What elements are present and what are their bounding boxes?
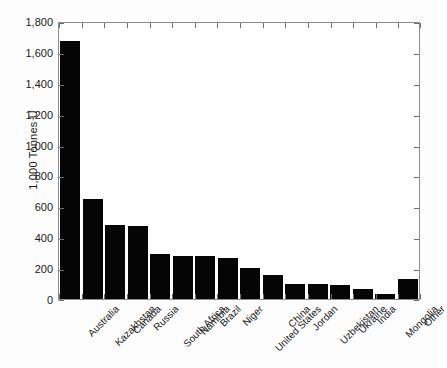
- x-axis-tick-top: [376, 23, 377, 28]
- x-axis-tick-top: [217, 23, 218, 28]
- y-axis-tick-label: 600: [1, 202, 53, 213]
- x-axis-tick-top: [195, 23, 196, 28]
- x-axis-tick: [376, 294, 377, 299]
- bar: [105, 225, 125, 299]
- x-axis-tick-top: [420, 23, 421, 28]
- y-axis-tick-right: [414, 147, 419, 148]
- x-axis-tick: [263, 294, 264, 299]
- x-axis-tick: [353, 294, 354, 299]
- plot-area: [58, 22, 420, 300]
- y-axis-tick-label: 1,800: [1, 17, 53, 28]
- y-axis-tick-label: 800: [1, 171, 53, 182]
- x-axis-tick: [308, 294, 309, 299]
- x-axis-tick-top: [150, 23, 151, 28]
- x-axis-tick: [285, 294, 286, 299]
- y-axis-tick-label: 1,200: [1, 109, 53, 120]
- y-axis-tick: [59, 208, 64, 209]
- bar: [60, 41, 80, 299]
- y-axis-tick-right: [414, 239, 419, 240]
- x-axis-tick-top: [240, 23, 241, 28]
- bar: [285, 284, 305, 299]
- x-axis-tick-top: [263, 23, 264, 28]
- y-axis-tick-right: [414, 177, 419, 178]
- x-axis-tick-top: [398, 23, 399, 28]
- bars-layer: [59, 23, 419, 299]
- bar: [330, 285, 350, 299]
- y-axis-tick: [59, 85, 64, 86]
- bar: [308, 284, 328, 299]
- x-axis-tick: [104, 294, 105, 299]
- y-axis-tick-label: 400: [1, 233, 53, 244]
- y-axis-tick: [59, 239, 64, 240]
- x-axis-tick: [82, 294, 83, 299]
- bar: [150, 254, 170, 299]
- y-axis-tick: [59, 54, 64, 55]
- x-axis-tick-top: [104, 23, 105, 28]
- bar: [128, 226, 148, 299]
- y-axis-tick-label: 1,000: [1, 140, 53, 151]
- x-axis-tick: [127, 294, 128, 299]
- y-axis-tick-label: 200: [1, 264, 53, 275]
- bar: [240, 268, 260, 299]
- bar: [173, 256, 193, 299]
- x-axis-tick: [240, 294, 241, 299]
- bar: [353, 289, 373, 299]
- y-axis-tick: [59, 116, 64, 117]
- bar: [195, 256, 215, 299]
- x-axis-tick-top: [172, 23, 173, 28]
- y-axis-tick: [59, 177, 64, 178]
- y-axis-tick-label: 1,400: [1, 78, 53, 89]
- bar: [263, 275, 283, 299]
- y-axis-tick-right: [414, 54, 419, 55]
- x-axis-tick-top: [127, 23, 128, 28]
- bar: [83, 199, 103, 299]
- x-axis-tick: [398, 294, 399, 299]
- x-axis-tick: [331, 294, 332, 299]
- y-axis-tick: [59, 300, 64, 301]
- y-axis-tick-label: 0: [1, 295, 53, 306]
- y-axis-tick-labels: 1,8001,6001,4001,2001,0008006004002000: [0, 22, 53, 300]
- bar: [218, 258, 238, 299]
- y-axis-tick-right: [414, 300, 419, 301]
- x-axis-tick: [420, 294, 421, 299]
- y-axis-tick-right: [414, 116, 419, 117]
- x-axis-tick-label: Australia: [87, 304, 122, 339]
- x-axis-tick-top: [82, 23, 83, 28]
- x-axis-tick-labels: AustraliaKazakhstanCanadaRussiaSouth Afr…: [58, 302, 420, 364]
- bar: [375, 294, 395, 299]
- x-axis-tick-top: [331, 23, 332, 28]
- y-axis-tick-right: [414, 23, 419, 24]
- y-axis-tick: [59, 270, 64, 271]
- x-axis-tick-top: [353, 23, 354, 28]
- bar: [398, 279, 418, 299]
- x-axis-tick-label: Niger: [241, 304, 265, 328]
- x-axis-tick: [59, 294, 60, 299]
- x-axis-tick: [217, 294, 218, 299]
- x-axis-tick-top: [59, 23, 60, 28]
- y-axis-tick-right: [414, 270, 419, 271]
- y-axis-tick-label: 1,600: [1, 47, 53, 58]
- y-axis-tick-right: [414, 208, 419, 209]
- x-axis-tick: [172, 294, 173, 299]
- x-axis-tick-top: [285, 23, 286, 28]
- y-axis-tick-right: [414, 85, 419, 86]
- x-axis-tick: [195, 294, 196, 299]
- y-axis-tick: [59, 147, 64, 148]
- x-axis-tick-top: [308, 23, 309, 28]
- x-axis-tick: [150, 294, 151, 299]
